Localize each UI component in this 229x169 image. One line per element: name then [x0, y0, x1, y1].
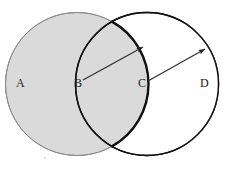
- label-d: D: [200, 77, 209, 89]
- circles-svg: [0, 0, 229, 169]
- label-b: B: [74, 77, 82, 89]
- label-a: A: [16, 77, 25, 89]
- label-c: C: [138, 77, 146, 89]
- scan-speck: [44, 157, 46, 159]
- two-overlapping-circles-figure: A B C D: [0, 0, 229, 169]
